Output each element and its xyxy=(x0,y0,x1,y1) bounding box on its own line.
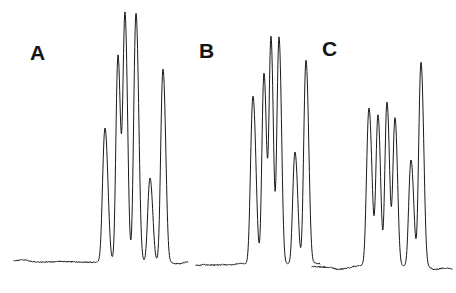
panel-label-c: C xyxy=(322,38,337,59)
chromatogram-traces xyxy=(0,0,456,293)
panel-label-b: B xyxy=(199,40,214,61)
figure-background xyxy=(0,0,456,293)
figure-canvas: A B C xyxy=(0,0,456,293)
panel-label-a: A xyxy=(30,42,45,63)
